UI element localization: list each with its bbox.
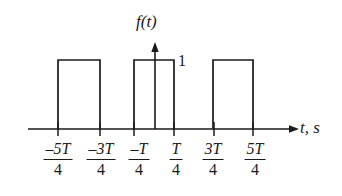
fraction-denominator: 4 bbox=[87, 162, 116, 178]
tick-label-minus-3T-over-4: –3T 4 bbox=[87, 141, 116, 178]
fraction-numerator: –T bbox=[129, 141, 150, 158]
tick-label-5T-over-4: 5T 4 bbox=[245, 141, 266, 178]
fraction: –3T 4 bbox=[87, 141, 116, 178]
fraction-numerator: –5T bbox=[44, 141, 73, 158]
fraction-denominator: 4 bbox=[44, 162, 73, 178]
fraction-bar bbox=[87, 159, 116, 160]
fraction: –5T 4 bbox=[44, 141, 73, 178]
fraction-numerator: 3T bbox=[203, 141, 224, 158]
fraction-denominator: 4 bbox=[245, 162, 266, 178]
tick-label-T-over-4: T 4 bbox=[170, 141, 183, 178]
fraction: 3T 4 bbox=[203, 141, 224, 178]
fraction-denominator: 4 bbox=[170, 162, 183, 178]
tick-label-minus-5T-over-4: –5T 4 bbox=[44, 141, 73, 178]
fraction-numerator: –3T bbox=[87, 141, 116, 158]
fraction-numerator: T bbox=[170, 141, 183, 158]
tick-label-minus-T-over-4: –T 4 bbox=[129, 141, 150, 178]
pulse-train-figure: f(t) t, s 1 –5T 4 –3T 4 –T 4 bbox=[0, 0, 342, 196]
tick-label-3T-over-4: 3T 4 bbox=[203, 141, 224, 178]
fraction: T 4 bbox=[170, 141, 183, 178]
fraction-bar bbox=[44, 159, 73, 160]
fraction: 5T 4 bbox=[245, 141, 266, 178]
fraction-bar bbox=[170, 159, 183, 160]
fraction-denominator: 4 bbox=[129, 162, 150, 178]
fraction-numerator: 5T bbox=[245, 141, 266, 158]
fraction-denominator: 4 bbox=[203, 162, 224, 178]
fraction-bar bbox=[203, 159, 224, 160]
fraction-bar bbox=[245, 159, 266, 160]
fraction: –T 4 bbox=[129, 141, 150, 178]
fraction-bar bbox=[129, 159, 150, 160]
x-axis-tick-labels: –5T 4 –3T 4 –T 4 T 4 bbox=[0, 0, 342, 196]
